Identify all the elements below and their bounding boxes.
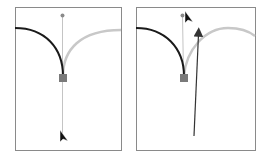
panel-frame xyxy=(16,8,122,151)
panel-after xyxy=(136,8,256,151)
handle-point[interactable] xyxy=(181,14,185,18)
anchor-point[interactable] xyxy=(180,74,188,82)
handle-point[interactable] xyxy=(61,14,65,18)
bezier-handle-diagram xyxy=(0,0,270,156)
panel-before xyxy=(15,8,122,151)
anchor-point[interactable] xyxy=(59,74,67,82)
